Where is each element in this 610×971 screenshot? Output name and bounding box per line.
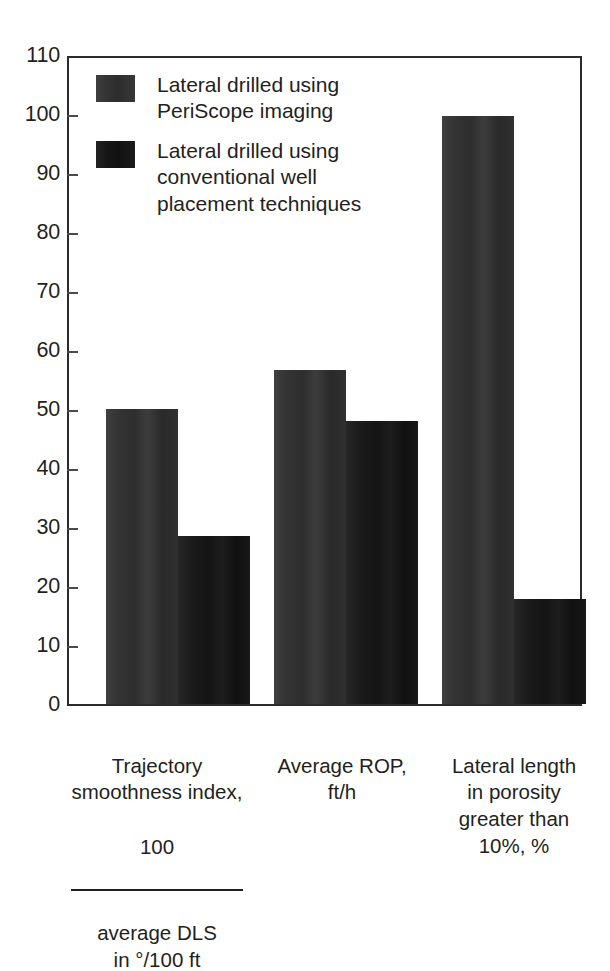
x-category-text: Trajectory smoothness index, <box>72 754 243 804</box>
fraction-bar <box>71 889 243 891</box>
x-category-label-porosity: Lateral length in porosity greater than … <box>419 726 609 859</box>
y-axis: 110 100 90 80 70 60 50 40 30 20 10 0 <box>0 0 60 908</box>
legend-item-conventional[interactable]: Lateral drilled using conventional well … <box>96 138 426 217</box>
legend-label: Lateral drilled using conventional well … <box>157 138 361 217</box>
bar-porosity-conventional[interactable] <box>514 599 586 704</box>
y-tick-label: 20 <box>2 576 60 598</box>
y-tick-label: 90 <box>2 163 60 185</box>
legend: Lateral drilled using PeriScope imaging … <box>96 72 426 217</box>
y-tick-label: 40 <box>2 458 60 480</box>
fraction-numerator: 100 <box>57 834 257 861</box>
x-category-label-trajectory: Trajectory smoothness index, 100 average… <box>57 726 257 971</box>
legend-swatch-icon <box>96 75 135 102</box>
y-tick-label: 60 <box>2 340 60 362</box>
legend-label: Lateral drilled using PeriScope imaging <box>157 72 339 125</box>
y-tick-label: 30 <box>2 517 60 539</box>
bar-rop-conventional[interactable] <box>346 421 418 704</box>
x-category-label-rop: Average ROP, ft/h <box>247 726 437 806</box>
x-axis-labels: Trajectory smoothness index, 100 average… <box>67 726 582 906</box>
y-tick-label: 100 <box>2 104 60 126</box>
x-category-fraction: 100 average DLS in °/100 ft <box>57 807 257 971</box>
y-tick-label: 50 <box>2 399 60 421</box>
legend-item-periscope[interactable]: Lateral drilled using PeriScope imaging <box>96 72 426 125</box>
x-category-text: Lateral length in porosity greater than … <box>452 754 576 857</box>
bar-porosity-periscope[interactable] <box>442 116 514 704</box>
y-tick-label: 10 <box>2 635 60 657</box>
y-tick-label: 110 <box>2 45 60 67</box>
bar-trajectory-conventional[interactable] <box>178 536 250 704</box>
bar-trajectory-periscope[interactable] <box>106 409 178 704</box>
y-tick-label: 0 <box>2 694 60 716</box>
fraction-denominator: average DLS in °/100 ft <box>57 920 257 971</box>
x-category-text: Average ROP, ft/h <box>277 754 406 804</box>
y-tick-label: 80 <box>2 222 60 244</box>
legend-swatch-icon <box>96 141 135 168</box>
bar-rop-periscope[interactable] <box>274 370 346 704</box>
y-tick-label: 70 <box>2 281 60 303</box>
